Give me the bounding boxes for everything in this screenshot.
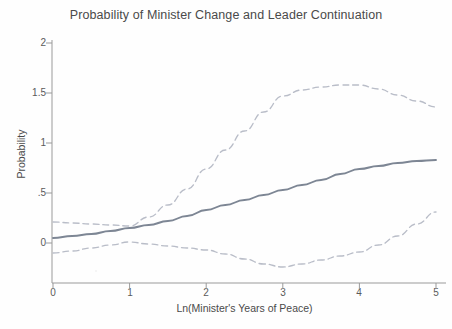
x-axis-ticks [53, 283, 436, 289]
scan-speck [95, 270, 97, 272]
chart-figure: Probability of Minister Change and Leade… [0, 0, 452, 329]
plot-area [0, 0, 452, 329]
y-axis-ticks [46, 43, 52, 243]
axis-lines [52, 40, 446, 283]
data-series-group [53, 85, 436, 267]
series-line-2 [53, 212, 436, 267]
series-line-1 [53, 85, 436, 226]
scan-speck [300, 18, 303, 20]
scan-speck [250, 300, 253, 302]
series-line-0 [53, 160, 436, 238]
